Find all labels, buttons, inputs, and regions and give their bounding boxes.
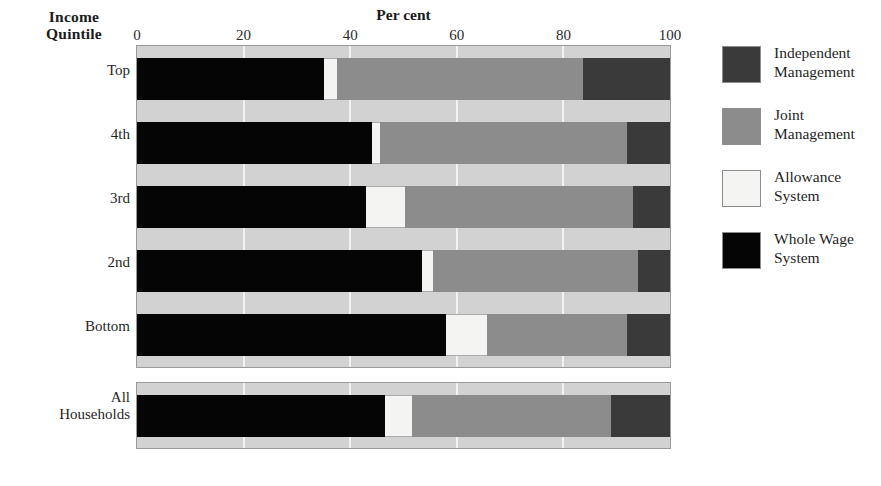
y-axis-title-line1: Income [18, 8, 130, 25]
category-label-line1: All [10, 389, 130, 406]
bar-segment-joint-management [412, 395, 611, 437]
legend-item-joint: JointManagement [722, 106, 877, 168]
legend-label-line2: Management [774, 124, 877, 143]
legend-label: Whole WageSystem [774, 229, 877, 267]
category-label-3rd: 3rd [10, 190, 130, 207]
bar-segment-independent-management [638, 250, 670, 292]
x-tick-label-0: 0 [133, 27, 141, 44]
bar-2nd [137, 250, 670, 292]
bar-all-households [137, 395, 670, 437]
category-label-line1: Bottom [10, 318, 130, 335]
bar-top [137, 58, 670, 100]
bar-segment-joint-management [433, 250, 638, 292]
bar-segment-allowance-system [446, 314, 487, 356]
legend-label-line2: Management [774, 62, 877, 81]
plot-panel-quintiles [136, 45, 671, 368]
legend-label-line2: System [774, 248, 877, 267]
legend-swatch-independent [722, 46, 761, 83]
legend-label-line1: Joint [774, 105, 877, 124]
bar-segment-allowance-system [366, 186, 405, 228]
bar-segment-whole-wage-system [137, 250, 422, 292]
category-label-line1: 3rd [10, 190, 130, 207]
y-axis-title-line2: Quintile [18, 25, 130, 42]
x-axis-title: Per cent [137, 7, 670, 23]
legend-swatch-whole-wage [722, 232, 761, 269]
category-label-line1: Top [10, 62, 130, 79]
bar-segment-independent-management [627, 122, 670, 164]
x-axis-tick-labels: 020406080100 [137, 27, 670, 45]
category-label-all-households: AllHouseholds [10, 389, 130, 423]
bar-segment-independent-management [611, 395, 670, 437]
category-label-bottom: Bottom [10, 318, 130, 335]
stacked-bar-chart: Income Quintile Per cent 020406080100 To… [0, 0, 881, 486]
legend-label: JointManagement [774, 105, 877, 143]
bar-segment-whole-wage-system [137, 186, 366, 228]
legend-label-line1: Independent [774, 43, 877, 62]
x-tick-label-60: 60 [449, 27, 464, 44]
bar-segment-whole-wage-system [137, 395, 385, 437]
bar-segment-joint-management [337, 58, 583, 100]
legend-label-line2: System [774, 186, 877, 205]
legend-item-independent: IndependentManagement [722, 44, 877, 106]
bar-segment-joint-management [380, 122, 627, 164]
bar-bottom [137, 314, 670, 356]
bar-segment-allowance-system [372, 122, 381, 164]
legend-label-line1: Whole Wage [774, 229, 877, 248]
bar-3rd [137, 186, 670, 228]
x-tick-label-40: 40 [343, 27, 358, 44]
x-tick-label-100: 100 [659, 27, 682, 44]
legend-swatch-joint [722, 108, 761, 145]
legend-label-line1: Allowance [774, 167, 877, 186]
bar-segment-whole-wage-system [137, 58, 324, 100]
bar-segment-independent-management [583, 58, 670, 100]
legend-item-whole-wage: Whole WageSystem [722, 230, 877, 292]
legend-item-allowance: AllowanceSystem [722, 168, 877, 230]
bar-segment-allowance-system [324, 58, 337, 100]
x-tick-label-20: 20 [236, 27, 251, 44]
bar-segment-independent-management [627, 314, 670, 356]
bar-segment-whole-wage-system [137, 314, 446, 356]
bar-segment-allowance-system [385, 395, 412, 437]
bar-segment-joint-management [405, 186, 633, 228]
bar-segment-joint-management [487, 314, 627, 356]
category-label-line1: 4th [10, 126, 130, 143]
category-label-line2: Households [10, 406, 130, 423]
legend-label: AllowanceSystem [774, 167, 877, 205]
x-tick-label-80: 80 [556, 27, 571, 44]
legend-label: IndependentManagement [774, 43, 877, 81]
plot-panel-all-households [136, 382, 671, 449]
legend: IndependentManagementJointManagementAllo… [722, 44, 877, 292]
category-label-top: Top [10, 62, 130, 79]
bar-segment-whole-wage-system [137, 122, 372, 164]
bar-segment-independent-management [633, 186, 670, 228]
bar-segment-allowance-system [422, 250, 433, 292]
bar-4th [137, 122, 670, 164]
y-axis-title: Income Quintile [18, 8, 130, 42]
category-label-line1: 2nd [10, 254, 130, 271]
legend-swatch-allowance [722, 170, 761, 207]
category-label-4th: 4th [10, 126, 130, 143]
category-label-2nd: 2nd [10, 254, 130, 271]
